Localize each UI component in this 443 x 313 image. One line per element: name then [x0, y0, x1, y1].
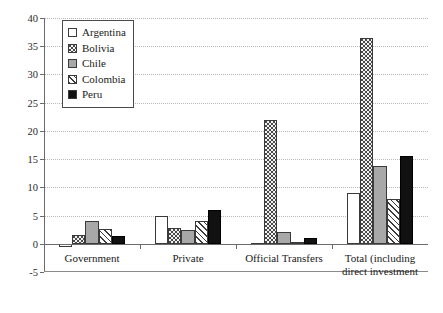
- x-category-label: Government: [44, 252, 140, 265]
- legend-label-argentina: Argentina: [82, 27, 126, 38]
- legend-item: Argentina: [68, 25, 126, 41]
- y-tick-label: 15: [28, 154, 39, 165]
- category-tick: [140, 244, 141, 249]
- x-category-label: Private: [140, 252, 236, 265]
- legend-item: Chile: [68, 56, 126, 72]
- y-tick-label: 0: [33, 238, 38, 249]
- legend-item: Bolivia: [68, 41, 126, 57]
- legend-swatch-chile: [68, 59, 77, 68]
- bar-chart: 4035302520151050-5 GovernmentPrivateOffi…: [0, 0, 443, 313]
- y-tick-label: 20: [28, 125, 39, 136]
- y-tick-mark: [40, 272, 44, 273]
- legend-label-bolivia: Bolivia: [82, 43, 114, 54]
- x-category-label: Total (including direct investment: [332, 252, 428, 278]
- y-tick-label: -5: [29, 267, 38, 278]
- legend-label-peru: Peru: [82, 89, 102, 100]
- y-tick-label: 30: [28, 69, 39, 80]
- legend-label-chile: Chile: [82, 58, 106, 69]
- category-tick: [236, 244, 237, 249]
- y-tick-label: 25: [28, 97, 39, 108]
- y-tick-label: 10: [28, 182, 39, 193]
- y-tick-label: 40: [28, 13, 39, 24]
- legend-swatch-argentina: [68, 28, 77, 37]
- legend-item: Peru: [68, 87, 126, 103]
- legend-swatch-colombia: [68, 75, 77, 84]
- y-tick-label: 5: [33, 210, 38, 221]
- legend-label-colombia: Colombia: [82, 74, 125, 85]
- y-tick-label: 35: [28, 41, 39, 52]
- x-category-label: Official Transfers: [236, 252, 332, 265]
- legend-swatch-bolivia: [68, 44, 77, 53]
- legend-item: Colombia: [68, 72, 126, 88]
- legend: Argentina Bolivia Chile Colombia Peru: [62, 20, 134, 108]
- legend-swatch-peru: [68, 90, 77, 99]
- category-tick: [332, 244, 333, 249]
